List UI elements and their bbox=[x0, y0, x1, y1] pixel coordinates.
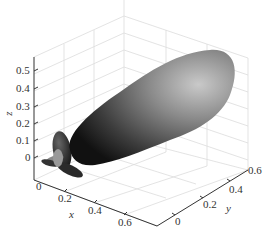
z-tick: 0.2 bbox=[16, 118, 30, 129]
y-tick: 0.2 bbox=[203, 199, 217, 210]
z-tick: 0.3 bbox=[16, 101, 30, 112]
3d-plot bbox=[0, 0, 266, 228]
x-tick: 0 bbox=[36, 181, 42, 192]
z-tick: 0.4 bbox=[16, 83, 30, 94]
y-tick: 0.6 bbox=[248, 165, 262, 176]
x-tick: 0.2 bbox=[58, 193, 72, 204]
y-tick: 0 bbox=[175, 216, 181, 227]
y-axis-label: y bbox=[226, 203, 231, 214]
z-tick: 0.5 bbox=[16, 65, 30, 76]
x-tick: 0.6 bbox=[118, 217, 132, 228]
z-axis-label: z bbox=[3, 111, 14, 115]
x-axis-label: x bbox=[69, 209, 74, 220]
z-tick: 0 bbox=[25, 152, 31, 163]
y-tick: 0.4 bbox=[229, 184, 243, 195]
x-tick: 0.4 bbox=[88, 205, 102, 216]
z-tick: 0.1 bbox=[16, 135, 30, 146]
